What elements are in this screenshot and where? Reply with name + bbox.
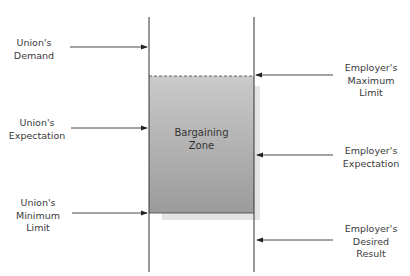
label-line: Employer's: [335, 145, 407, 158]
employer-desired-label: Employer's Desired Result: [335, 223, 407, 261]
zone-label-line1: Bargaining: [149, 126, 254, 139]
label-line: Expectation: [2, 130, 72, 143]
employer-maximum-label: Employer's Maximum Limit: [335, 62, 407, 100]
label-line: Limit: [8, 222, 68, 235]
label-line: Union's: [4, 37, 64, 50]
label-line: Union's: [8, 197, 68, 210]
union-minimum-label: Union's Minimum Limit: [8, 197, 68, 235]
union-expectation-label: Union's Expectation: [2, 117, 72, 142]
union-demand-label: Union's Demand: [4, 37, 64, 62]
label-line: Result: [335, 248, 407, 261]
label-line: Employer's: [335, 62, 407, 75]
label-line: Desired: [335, 236, 407, 249]
employer-expectation-label: Employer's Expectation: [335, 145, 407, 170]
label-line: Union's: [2, 117, 72, 130]
label-line: Maximum: [335, 75, 407, 88]
label-line: Limit: [335, 87, 407, 100]
label-line: Demand: [4, 50, 64, 63]
zone-label: Bargaining Zone: [149, 126, 254, 152]
zone-label-line2: Zone: [149, 139, 254, 152]
label-line: Expectation: [335, 158, 407, 171]
label-line: Minimum: [8, 210, 68, 223]
label-line: Employer's: [335, 223, 407, 236]
